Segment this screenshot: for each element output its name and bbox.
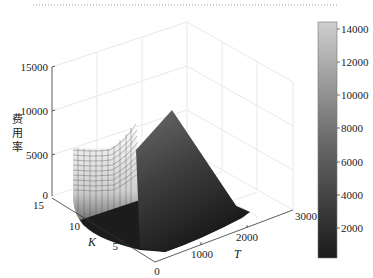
k-tick-15: 15	[33, 199, 45, 211]
colorbar: 14000 12000 10000 8000 6000 4000 2000	[318, 22, 369, 258]
svg-text:费: 费	[12, 113, 23, 126]
cbar-tick-12000: 12000	[341, 56, 369, 68]
t-tick-2000: 2000	[236, 231, 259, 243]
svg-text:用: 用	[12, 127, 23, 140]
z-tick-10000: 10000	[21, 105, 49, 117]
z-tick-5000: 5000	[26, 149, 49, 161]
t-tick-3000: 3000	[295, 210, 318, 222]
surface-chart: 15000 10000 5000 0 费 用 率 15 10 5 0 K 100…	[0, 0, 373, 278]
cbar-tick-4000: 4000	[341, 189, 364, 201]
k-tick-0: 0	[154, 265, 160, 277]
cbar-tick-10000: 10000	[341, 89, 369, 101]
svg-text:率: 率	[12, 140, 23, 154]
t-axis-label: T	[234, 247, 242, 261]
surface	[73, 110, 250, 252]
cbar-tick-14000: 14000	[341, 23, 369, 35]
k-tick-10: 10	[69, 220, 81, 232]
t-tick-1000: 1000	[191, 248, 214, 260]
cbar-tick-2000: 2000	[341, 222, 364, 234]
z-axis-label: 费 用 率	[12, 113, 23, 154]
k-tick-5: 5	[113, 240, 119, 252]
cbar-tick-8000: 8000	[341, 122, 364, 134]
k-axis-label: K	[87, 235, 97, 249]
z-tick-15000: 15000	[21, 61, 49, 73]
cbar-tick-6000: 6000	[341, 156, 364, 168]
